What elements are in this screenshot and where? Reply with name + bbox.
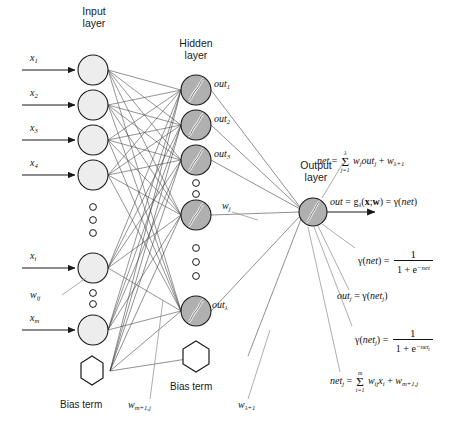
weight-label-wij: wij	[30, 289, 40, 301]
equation-out-j: outj = γ(netj)	[337, 290, 387, 302]
input-label-x1: x1	[30, 52, 38, 64]
equation-net-j: netj = mΣi=1 wijxi + wm+1,j	[330, 370, 418, 393]
hidden-layer-nodes	[181, 75, 211, 326]
input-hidden-edges	[108, 70, 181, 330]
input-node-x3	[78, 125, 108, 155]
hidden-label-out1: out1	[214, 78, 230, 90]
input-node-xi	[78, 253, 108, 283]
hidden-layer-heading: Hidden layer	[172, 38, 220, 62]
input-node-x1	[78, 55, 108, 85]
weight-label-bias-hidden: wλ+1	[238, 399, 255, 411]
hidden-label-outlambda: outλ	[212, 299, 228, 311]
equation-gamma-net-j: γ(netj) = 1 1 + e−netj	[355, 327, 435, 355]
input-label-xi: xi	[30, 250, 36, 262]
bias-term-label-input: Bias term	[60, 399, 102, 410]
input-node-x4	[78, 160, 108, 190]
input-layer-heading: Input layer	[71, 6, 117, 30]
input-label-x3: x3	[30, 122, 38, 134]
input-layer-heading-line2: layer	[83, 17, 106, 29]
hidden-layer-heading-line2: layer	[185, 49, 208, 61]
neural-network-diagram: Input layer Hidden layer Output layer x1…	[0, 0, 455, 435]
input-layer-heading-line1: Input	[82, 5, 105, 17]
input-layer-nodes	[78, 55, 108, 345]
equation-out: out = gλ(x;w) = γ(net)	[330, 196, 417, 208]
weight-label-wj: wj	[222, 200, 231, 212]
weight-label-bias-input: wm+1,j	[128, 399, 151, 411]
input-label-xm: xm	[30, 312, 39, 324]
hidden-label-out3: out3	[214, 148, 230, 160]
equation-gamma-net: γ(net) = 1 1 + e−net	[358, 248, 435, 276]
bias-node-hidden-layer	[183, 341, 209, 372]
hidden-label-out2: out2	[214, 113, 230, 125]
input-node-x2	[78, 90, 108, 120]
hidden-output-edges	[211, 90, 301, 356]
hidden-layer-heading-line1: Hidden	[179, 37, 212, 49]
input-node-xm	[78, 315, 108, 345]
input-label-x2: x2	[30, 87, 38, 99]
bias-term-label-hidden: Bias term	[170, 381, 212, 392]
equation-net: net = λΣj=1 wjoutj + wλ+1	[317, 150, 404, 173]
output-layer-node	[299, 198, 327, 226]
input-label-x4: x4	[30, 157, 38, 169]
bias-node-input-layer	[81, 356, 103, 385]
